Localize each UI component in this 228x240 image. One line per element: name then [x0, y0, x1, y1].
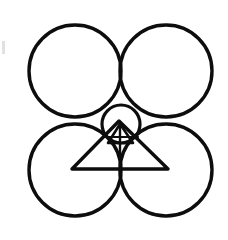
figure-canvas: Four tangent circles with inscribed cent… [0, 0, 228, 240]
top-left-circle [29, 25, 121, 117]
top-right-circle [120, 25, 212, 117]
geometric-line-drawing: Four tangent circles with inscribed cent… [0, 0, 228, 240]
left-edge-smudge [2, 41, 5, 54]
